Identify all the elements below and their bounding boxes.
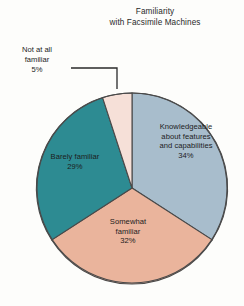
slice-label-somewhat-line-1: Somewhat (90, 217, 166, 227)
slice-label-notatall: Not at all familiar 5% (4, 45, 70, 75)
slice-value-knowledgeable: 34% (143, 151, 229, 161)
slice-label-barely-line-1: Barely familiar (38, 152, 112, 162)
slice-label-notatall-line-2: familiar (4, 55, 70, 65)
slice-label-notatall-line-1: Not at all (4, 45, 70, 55)
slice-value-barely: 29% (38, 162, 112, 172)
slice-label-knowledgeable-line-3: and capabilities (143, 141, 229, 151)
slice-value-somewhat: 32% (90, 236, 166, 246)
slice-label-barely: Barely familiar 29% (38, 152, 112, 171)
callout-leader-line (71, 68, 117, 89)
slice-value-notatall: 5% (4, 65, 70, 75)
slice-label-knowledgeable: Knowledgeable about features and capabil… (143, 122, 229, 160)
slice-label-somewhat-line-2: familiar (90, 227, 166, 237)
pie-chart-figure: Familiarity with Facsimile Machines Know… (0, 0, 244, 306)
slice-label-knowledgeable-line-2: about features (143, 132, 229, 142)
slice-label-knowledgeable-line-1: Knowledgeable (143, 122, 229, 132)
slice-label-somewhat: Somewhat familiar 32% (90, 217, 166, 246)
